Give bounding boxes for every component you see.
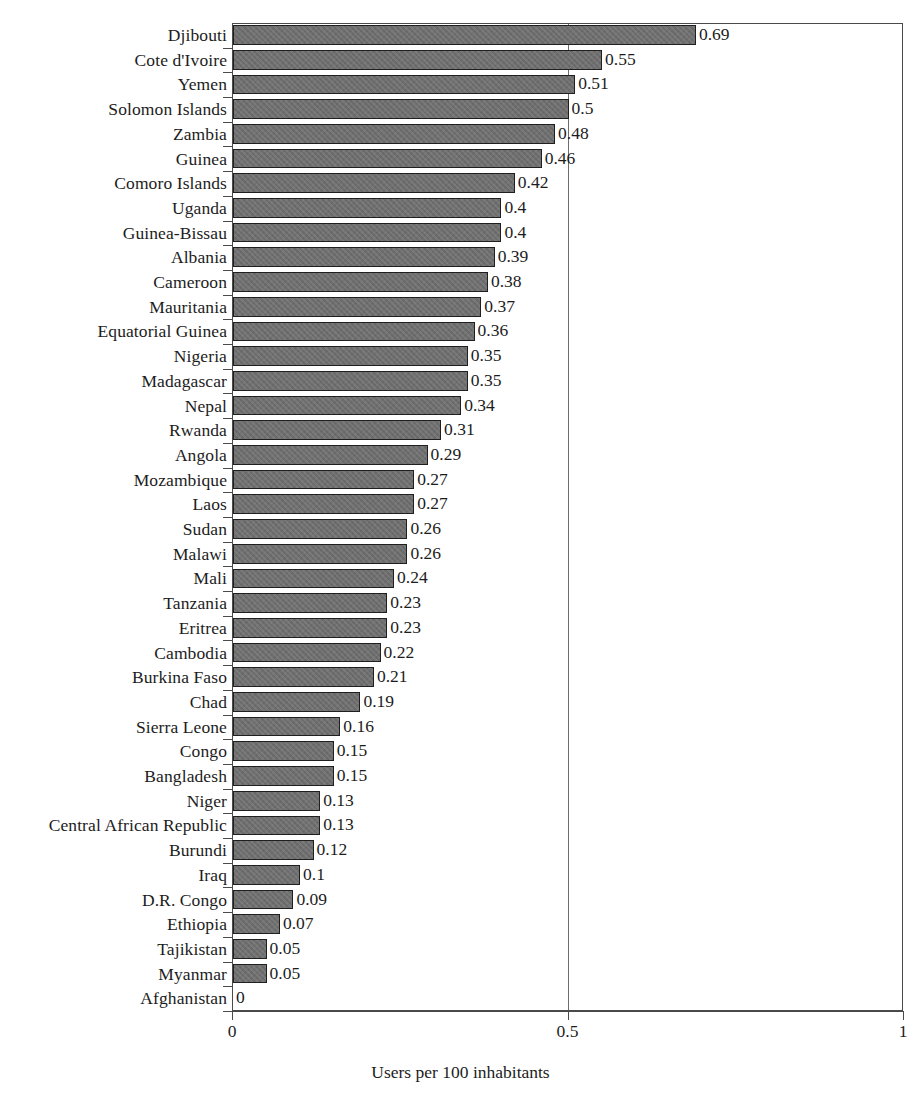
bar-row: Tanzania0.23 [0, 591, 921, 616]
bar-row: Mozambique0.27 [0, 468, 921, 493]
category-label: Angola [175, 443, 227, 468]
bar-row: Djibouti0.69 [0, 23, 921, 48]
bar [233, 149, 542, 169]
bar-row: Mauritania0.37 [0, 295, 921, 320]
x-axis-title: Users per 100 inhabitants [0, 1062, 921, 1083]
x-axis-tick [568, 1011, 569, 1020]
bar [233, 272, 488, 292]
bar-row: Cameroon0.38 [0, 270, 921, 295]
category-label: Solomon Islands [108, 97, 227, 122]
bar-value-label: 0.26 [410, 542, 441, 567]
bar [233, 544, 407, 564]
bar-value-label: 0.15 [337, 739, 368, 764]
bar-value-label: 0.35 [471, 369, 502, 394]
x-axis-tick [232, 1011, 233, 1020]
bar [233, 618, 387, 638]
category-label: Cameroon [153, 270, 227, 295]
bar-row: Guinea0.46 [0, 147, 921, 172]
category-label: D.R. Congo [142, 888, 227, 913]
bar-value-label: 0.23 [390, 591, 421, 616]
bar [233, 939, 267, 959]
bar-value-label: 0.35 [471, 344, 502, 369]
bar-row: Angola0.29 [0, 443, 921, 468]
bar-row: Tajikistan0.05 [0, 937, 921, 962]
bar-value-label: 0.16 [343, 715, 374, 740]
bar-row: Solomon Islands0.5 [0, 97, 921, 122]
bar-row: Congo0.15 [0, 739, 921, 764]
bar [233, 247, 495, 267]
bar-row: Mali0.24 [0, 566, 921, 591]
bar-row: Sudan0.26 [0, 517, 921, 542]
bar-row: Ethiopia0.07 [0, 912, 921, 937]
bar-value-label: 0.12 [317, 838, 348, 863]
category-label: Nigeria [174, 344, 227, 369]
bar-row: Cote d'Ivoire0.55 [0, 48, 921, 73]
bar-row: Sierra Leone0.16 [0, 715, 921, 740]
category-label: Equatorial Guinea [98, 319, 228, 344]
bar [233, 816, 320, 836]
bar-value-label: 0.22 [384, 641, 415, 666]
x-axis-tick-label: 0.5 [557, 1021, 579, 1042]
category-label: Zambia [173, 122, 227, 147]
bar [233, 75, 575, 95]
category-label: Bangladesh [144, 764, 227, 789]
bar [233, 667, 374, 687]
bar-value-label: 0.38 [491, 270, 522, 295]
bar [233, 766, 334, 786]
bar-value-label: 0.37 [484, 295, 515, 320]
bar [233, 173, 515, 193]
bar [233, 297, 481, 317]
bar-row: Comoro Islands0.42 [0, 171, 921, 196]
x-axis-tick-label: 0 [228, 1021, 237, 1042]
bar-value-label: 0.55 [605, 48, 636, 73]
bar-value-label: 0.4 [504, 221, 526, 246]
bar [233, 791, 320, 811]
bar-row: Madagascar0.35 [0, 369, 921, 394]
category-label: Burundi [169, 838, 227, 863]
category-label: Ethiopia [167, 912, 227, 937]
category-label: Central African Republic [49, 813, 227, 838]
category-label: Uganda [172, 196, 227, 221]
category-label: Yemen [178, 72, 227, 97]
bar-row: Guinea-Bissau0.4 [0, 221, 921, 246]
bar-value-label: 0.13 [323, 789, 354, 814]
bar [233, 99, 569, 119]
bar-row: Uganda0.4 [0, 196, 921, 221]
category-label: Myanmar [158, 962, 227, 987]
bar [233, 25, 696, 45]
bar-value-label: 0.4 [504, 196, 526, 221]
bar-value-label: 0 [236, 986, 245, 1011]
category-label: Guinea-Bissau [123, 221, 227, 246]
bar [233, 223, 501, 243]
category-label: Tanzania [163, 591, 227, 616]
bar-chart: Djibouti0.69Cote d'Ivoire0.55Yemen0.51So… [0, 0, 921, 1098]
bar [233, 494, 414, 514]
bar-row: D.R. Congo0.09 [0, 888, 921, 913]
bar [233, 964, 267, 984]
bar-row: Burkina Faso0.21 [0, 665, 921, 690]
bar-value-label: 0.13 [323, 813, 354, 838]
category-label: Afghanistan [140, 986, 227, 1011]
category-label: Sierra Leone [136, 715, 227, 740]
bar [233, 346, 468, 366]
bar-rows-container: Djibouti0.69Cote d'Ivoire0.55Yemen0.51So… [0, 23, 921, 1011]
bar-value-label: 0.19 [363, 690, 394, 715]
bar-value-label: 0.31 [444, 418, 475, 443]
bar-row: Malawi0.26 [0, 542, 921, 567]
category-label: Mali [194, 566, 227, 591]
bar-row: Albania0.39 [0, 245, 921, 270]
category-label: Albania [171, 245, 227, 270]
bar-row: Eritrea0.23 [0, 616, 921, 641]
bar [233, 569, 394, 589]
bar [233, 420, 441, 440]
bar [233, 371, 468, 391]
bar [233, 445, 428, 465]
category-label: Cambodia [154, 641, 227, 666]
bar-value-label: 0.07 [283, 912, 314, 937]
x-axis-tick-label: 1 [899, 1021, 908, 1042]
bar [233, 50, 602, 70]
bar [233, 593, 387, 613]
bar-row: Chad0.19 [0, 690, 921, 715]
category-label: Congo [180, 739, 227, 764]
bar-value-label: 0.24 [397, 566, 428, 591]
